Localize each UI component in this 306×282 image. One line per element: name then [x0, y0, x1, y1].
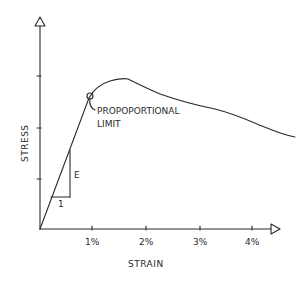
x-axis-arrow-icon	[271, 224, 280, 234]
run-label: 1	[58, 199, 64, 209]
x-tick-label: 3%	[193, 237, 208, 247]
x-axis	[40, 224, 280, 234]
x-tick-label: 2%	[139, 237, 154, 247]
leader-line	[90, 99, 95, 110]
y-axis-arrow-icon	[35, 17, 45, 26]
x-axis-label: STRAIN	[128, 259, 164, 269]
x-tick-label: 4%	[245, 237, 260, 247]
stress-strain-curve	[40, 79, 295, 229]
y-axis-label: STRESS	[20, 124, 30, 162]
proportional-limit-label-line1: PROPOPORTIONAL	[97, 106, 180, 116]
diagram-canvas: 1% 2% 3% 4% STRAIN STRESS PROPOPORTIONAL…	[0, 0, 306, 282]
modulus-label: E	[74, 170, 80, 180]
proportional-limit-label-line2: LIMIT	[97, 119, 121, 129]
y-axis	[35, 17, 45, 229]
stress-strain-diagram: 1% 2% 3% 4% STRAIN STRESS PROPOPORTIONAL…	[0, 0, 306, 282]
x-tick-label: 1%	[85, 237, 100, 247]
